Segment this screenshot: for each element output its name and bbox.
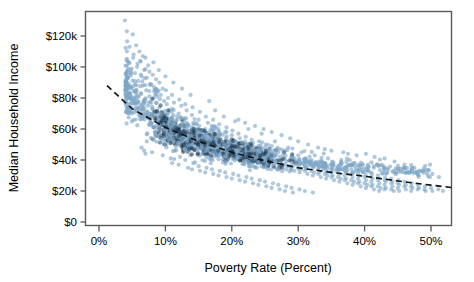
scatter-point (183, 102, 187, 106)
scatter-point (123, 46, 127, 50)
scatter-point (187, 146, 191, 150)
y-tick-label: $100k (46, 61, 78, 73)
scatter-point (276, 183, 280, 187)
scatter-point (270, 186, 274, 190)
scatter-point (174, 118, 178, 122)
scatter-point (171, 137, 175, 141)
scatter-point (308, 160, 312, 164)
scatter-point (392, 171, 396, 175)
scatter-point (372, 155, 376, 159)
scatter-point (153, 93, 157, 97)
scatter-point (209, 157, 213, 161)
scatter-point (238, 136, 242, 140)
scatter-point (355, 153, 359, 157)
scatter-point (131, 32, 135, 36)
y-tick-label: $40k (52, 154, 77, 166)
scatter-point (345, 168, 349, 172)
scatter-point (139, 59, 143, 63)
scatter-point (143, 67, 147, 71)
x-tick-label: 50% (419, 235, 442, 247)
scatter-point (222, 115, 226, 119)
scatter-point (273, 153, 277, 157)
scatter-point (291, 190, 295, 194)
scatter-point (185, 108, 189, 112)
scatter-point (197, 164, 201, 168)
scatter-point (296, 139, 300, 143)
x-tick-label: 40% (353, 235, 376, 247)
scatter-point (131, 56, 135, 60)
scatter-point (154, 124, 158, 128)
scatter-point (192, 117, 196, 121)
scatter-point (211, 118, 215, 122)
scatter-point (262, 127, 266, 131)
scatter-point (177, 97, 181, 101)
scatter-point (206, 147, 210, 151)
scatter-point (246, 160, 250, 164)
scatter-point (125, 76, 129, 80)
scatter-point (192, 127, 196, 131)
scatter-point (385, 166, 389, 170)
scatter-point (151, 73, 155, 77)
scatter-point (251, 181, 255, 185)
scatter-point (198, 110, 202, 114)
scatter-point (285, 148, 289, 152)
scatter-point (129, 86, 133, 90)
scatter-point (180, 87, 184, 91)
x-axis-title: Poverty Rate (Percent) (204, 261, 331, 275)
scatter-point (224, 125, 228, 129)
scatter-point (279, 158, 283, 162)
scatter-point (171, 80, 175, 84)
scatter-point (335, 166, 339, 170)
scatter-point (136, 100, 140, 104)
scatter-point (360, 163, 364, 167)
scatter-point (223, 170, 227, 174)
scatter-point (436, 187, 440, 191)
scatter-point (398, 166, 402, 170)
scatter-point (180, 122, 184, 126)
scatter-point (189, 93, 193, 97)
scatter-point (311, 173, 315, 177)
scatter-point (372, 166, 376, 170)
scatter-point (265, 167, 269, 171)
scatter-point (289, 155, 293, 159)
scatter-point (269, 154, 273, 158)
scatter-point (157, 80, 161, 84)
scatter-point (163, 109, 167, 113)
scatter-point (140, 79, 144, 83)
scatter-point (237, 148, 241, 152)
scatter-point (133, 79, 137, 83)
y-tick-label: $60k (52, 123, 77, 135)
scatter-point (147, 89, 151, 93)
scatter-point (356, 163, 360, 167)
scatter-point (127, 115, 131, 119)
scatter-point (382, 156, 386, 160)
scatter-point (243, 180, 247, 184)
scatter-point (133, 71, 137, 75)
scatter-point (124, 104, 128, 108)
scatter-point (124, 90, 128, 94)
scatter-point (236, 132, 240, 136)
scatter-point (319, 158, 323, 162)
scatter-point (200, 152, 204, 156)
scatter-point (171, 149, 175, 153)
scatter-point (155, 140, 159, 144)
scatter-point (409, 189, 413, 193)
scatter-point (152, 89, 156, 93)
scatter-point (263, 180, 267, 184)
scatter-point (424, 189, 428, 193)
scatter-point (251, 159, 255, 163)
scatter-point (223, 160, 227, 164)
scatter-point (135, 123, 139, 127)
scatter-point (216, 173, 220, 177)
scatter-point (128, 102, 132, 106)
scatter-point (153, 116, 157, 120)
scatter-point (289, 186, 293, 190)
scatter-point (159, 93, 163, 97)
scatter-point (284, 184, 288, 188)
scatter-point (319, 175, 323, 179)
scatter-point (341, 150, 345, 154)
scatter-point (382, 187, 386, 191)
scatter-point (190, 167, 194, 171)
scatter-point (281, 153, 285, 157)
scatter-point (323, 147, 327, 151)
